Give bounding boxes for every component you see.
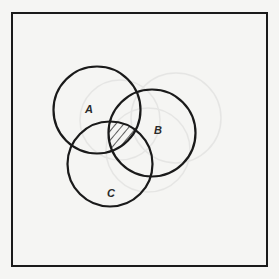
paper-background: [0, 0, 279, 279]
set-b-label: B: [154, 124, 162, 136]
venn-diagram-canvas: A B C: [0, 0, 279, 279]
set-a-label: A: [84, 103, 93, 115]
set-c-label: C: [107, 187, 116, 199]
venn-diagram: A B C: [0, 0, 279, 279]
